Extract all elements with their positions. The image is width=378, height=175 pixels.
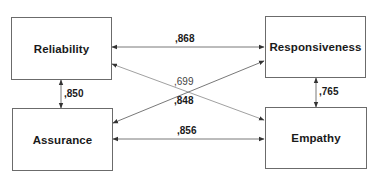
node-assurance: Assurance: [12, 108, 113, 171]
node-responsiveness: Responsiveness: [265, 16, 366, 78]
node-label: Assurance: [33, 134, 93, 146]
node-label: Reliability: [34, 43, 89, 55]
node-label: Empathy: [291, 132, 340, 144]
node-reliability: Reliability: [11, 17, 112, 80]
correlation-diagram: Reliability Responsiveness Assurance Emp…: [0, 0, 378, 175]
edge-assurance-responsiveness: [113, 61, 264, 123]
coefficient-assurance-responsiveness: ,848: [174, 96, 193, 106]
node-label: Responsiveness: [269, 41, 361, 53]
coefficient-reliability-assurance: ,850: [64, 89, 83, 99]
coefficient-reliability-empathy: ,699: [174, 77, 193, 87]
node-empathy: Empathy: [265, 107, 367, 169]
coefficient-responsiveness-empathy: ,765: [319, 87, 338, 97]
coefficient-reliability-responsiveness: ,868: [175, 34, 194, 44]
coefficient-assurance-empathy: ,856: [177, 126, 196, 136]
